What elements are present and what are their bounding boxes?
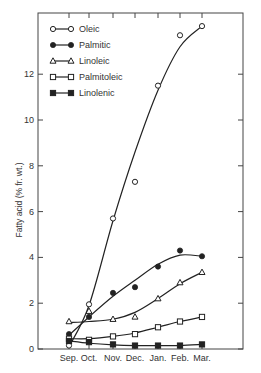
legend-label: Linolenic [79, 88, 115, 98]
y-tick-label: 2 [29, 298, 34, 308]
x-tick-label: Sep. [60, 353, 79, 363]
marker-palmitic [177, 248, 182, 253]
marker-linolenic [86, 340, 91, 345]
legend-marker-end [68, 74, 73, 79]
legend-item-palmitic: Palmitic [50, 40, 111, 50]
marker-palmitoleic [177, 319, 182, 324]
marker-oleic [199, 24, 204, 29]
legend-marker-start [50, 26, 55, 31]
marker-palmitic [86, 314, 91, 319]
legend-marker-end [68, 42, 73, 47]
x-tick-label: Feb. [171, 353, 189, 363]
legend-label: Oleic [79, 24, 100, 34]
legend-item-palmitoleic: Palmitoleic [50, 72, 123, 82]
marker-oleic [132, 179, 137, 184]
marker-linoleic [132, 314, 138, 319]
y-tick-label: 0 [29, 344, 34, 354]
marker-linoleic [199, 269, 205, 274]
legend-item-linoleic: Linoleic [50, 56, 110, 66]
y-tick-label: 4 [29, 252, 34, 262]
legend-label: Linoleic [79, 56, 110, 66]
marker-linolenic [110, 342, 115, 347]
marker-oleic [86, 302, 91, 307]
x-tick-label: Mar. [193, 353, 211, 363]
x-tick-label: Oct. [81, 353, 98, 363]
marker-palmitic [110, 290, 115, 295]
legend-marker-start [50, 42, 55, 47]
marker-linoleic [66, 318, 72, 323]
marker-palmitic [132, 285, 137, 290]
marker-linolenic [177, 343, 182, 348]
marker-palmitoleic [110, 334, 115, 339]
marker-linolenic [66, 338, 71, 343]
legend: OleicPalmiticLinoleicPalmitoleicLinoleni… [50, 24, 123, 98]
legend-marker-end [68, 90, 73, 95]
legend-item-oleic: Oleic [50, 24, 100, 34]
legend-marker-end [68, 26, 73, 31]
marker-oleic [177, 33, 182, 38]
fatty-acid-chart: 024681012 Sep.Oct.Nov.Dec.Jan.Feb.Mar. O… [0, 0, 261, 373]
marker-palmitic [155, 264, 160, 269]
x-tick-label: Dec. [126, 353, 145, 363]
y-tick-label: 12 [24, 69, 34, 79]
marker-linolenic [199, 342, 204, 347]
legend-label: Palmitic [79, 40, 111, 50]
x-tick-label: Jan. [149, 353, 166, 363]
y-tick-label: 6 [29, 207, 34, 217]
legend-item-linolenic: Linolenic [50, 88, 115, 98]
marker-linolenic [155, 343, 160, 348]
y-axis-ticks: 024681012 [24, 69, 243, 354]
y-tick-label: 8 [29, 161, 34, 171]
marker-oleic [110, 216, 115, 221]
legend-label: Palmitoleic [79, 72, 123, 82]
y-tick-label: 10 [24, 115, 34, 125]
legend-marker-start [50, 90, 55, 95]
legend-marker-start [50, 74, 55, 79]
marker-linoleic [155, 295, 161, 300]
marker-palmitoleic [199, 314, 204, 319]
marker-palmitoleic [132, 332, 137, 337]
marker-linolenic [132, 343, 137, 348]
marker-palmitic [199, 254, 204, 259]
marker-oleic [155, 83, 160, 88]
x-tick-label: Nov. [104, 353, 122, 363]
y-axis-title: Fatty acid (% fr. wt.) [14, 162, 24, 237]
marker-palmitoleic [155, 325, 160, 330]
